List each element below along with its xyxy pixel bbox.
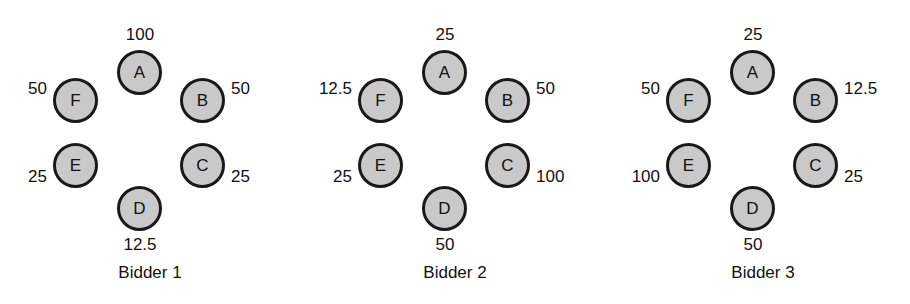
node-d-letter: D [133,200,145,217]
bidder-group-3: A B C D E F 25 12.5 25 50 100 50 Bidder … [613,0,910,304]
node-e-value: 25 [0,168,47,185]
node-b-letter: B [810,92,821,109]
node-c[interactable]: C [485,143,530,188]
node-c-letter: C [809,157,821,174]
bidder-valuations-figure: A B C D E F 100 50 25 12.5 25 50 Bidder … [0,0,910,304]
node-c-letter: C [196,157,208,174]
node-f-value: 50 [613,80,660,97]
node-f-letter: F [70,92,80,109]
node-a-value: 100 [95,26,185,43]
bidder-group-1: A B C D E F 100 50 25 12.5 25 50 Bidder … [0,0,300,304]
node-e[interactable]: E [666,143,711,188]
node-b-value: 12.5 [844,80,877,97]
node-b-value: 50 [536,80,555,97]
node-e-letter: E [70,157,81,174]
node-e-value: 25 [305,168,352,185]
node-d-letter: D [746,200,758,217]
node-d-value: 50 [400,236,490,253]
node-b[interactable]: B [485,78,530,123]
node-a-letter: A [439,64,450,81]
bidder-caption: Bidder 2 [305,264,605,281]
node-a-value: 25 [708,26,798,43]
node-c-value: 100 [536,168,564,185]
node-f-value: 12.5 [305,80,352,97]
node-a-letter: A [747,64,758,81]
bidder-caption: Bidder 1 [0,264,300,281]
node-b[interactable]: B [180,78,225,123]
node-a[interactable]: A [730,50,775,95]
node-b[interactable]: B [793,78,838,123]
node-d[interactable]: D [117,186,162,231]
node-a[interactable]: A [117,50,162,95]
node-d-value: 12.5 [95,236,185,253]
node-f-value: 50 [0,80,47,97]
node-b-letter: B [197,92,208,109]
node-d[interactable]: D [730,186,775,231]
node-d[interactable]: D [422,186,467,231]
node-e-letter: E [683,157,694,174]
node-b-letter: B [502,92,513,109]
node-c-value: 25 [844,168,863,185]
node-f[interactable]: F [53,78,98,123]
node-f[interactable]: F [666,78,711,123]
node-c-letter: C [501,157,513,174]
node-f-letter: F [375,92,385,109]
node-e[interactable]: E [53,143,98,188]
node-b-value: 50 [231,80,250,97]
node-a-letter: A [134,64,145,81]
node-a[interactable]: A [422,50,467,95]
node-e-value: 100 [613,168,660,185]
node-e[interactable]: E [358,143,403,188]
node-c-value: 25 [231,168,250,185]
node-a-value: 25 [400,26,490,43]
node-f-letter: F [683,92,693,109]
node-e-letter: E [375,157,386,174]
node-c[interactable]: C [793,143,838,188]
node-d-letter: D [438,200,450,217]
node-d-value: 50 [708,236,798,253]
node-c[interactable]: C [180,143,225,188]
bidder-group-2: A B C D E F 25 50 100 50 25 12.5 Bidder … [305,0,605,304]
node-f[interactable]: F [358,78,403,123]
bidder-caption: Bidder 3 [613,264,910,281]
